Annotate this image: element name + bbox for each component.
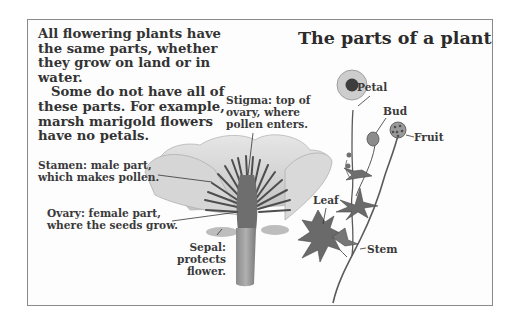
label-stamen-line2: which makes pollen. <box>38 171 159 183</box>
label-stem: Stem <box>367 243 398 255</box>
label-leaf: Leaf <box>313 194 339 206</box>
label-stamen: Stamen: male part, which makes pollen. <box>38 159 159 183</box>
ovary-icon <box>237 175 258 230</box>
label-fruit: Fruit <box>414 131 444 143</box>
label-petal: Petal <box>357 81 387 93</box>
label-stigma-line3: pollen enters. <box>226 118 310 130</box>
label-stigma-line2: ovary, where <box>226 106 310 118</box>
petal-right-icon <box>285 153 332 220</box>
bud-icon <box>367 132 379 146</box>
flower-stem-icon <box>236 228 256 286</box>
label-sepal-line2: protects <box>172 253 226 265</box>
label-stigma: Stigma: top of ovary, where pollen enter… <box>226 94 310 131</box>
label-ovary: Ovary: female part, where the seeds grow… <box>47 207 178 231</box>
label-ovary-line2: where the seeds grow. <box>47 219 178 231</box>
label-stamen-line1: Stamen: male part, <box>38 159 159 171</box>
label-sepal-line1: Sepal: <box>172 241 226 253</box>
label-bud: Bud <box>383 105 407 117</box>
label-sepal: Sepal: protects flower. <box>172 241 226 278</box>
label-ovary-line1: Ovary: female part, <box>47 207 178 219</box>
sepal-left-icon <box>206 227 238 237</box>
sepal-right-icon <box>261 225 289 235</box>
label-sepal-line3: flower. <box>172 265 226 277</box>
label-stigma-line1: Stigma: top of <box>226 94 310 106</box>
